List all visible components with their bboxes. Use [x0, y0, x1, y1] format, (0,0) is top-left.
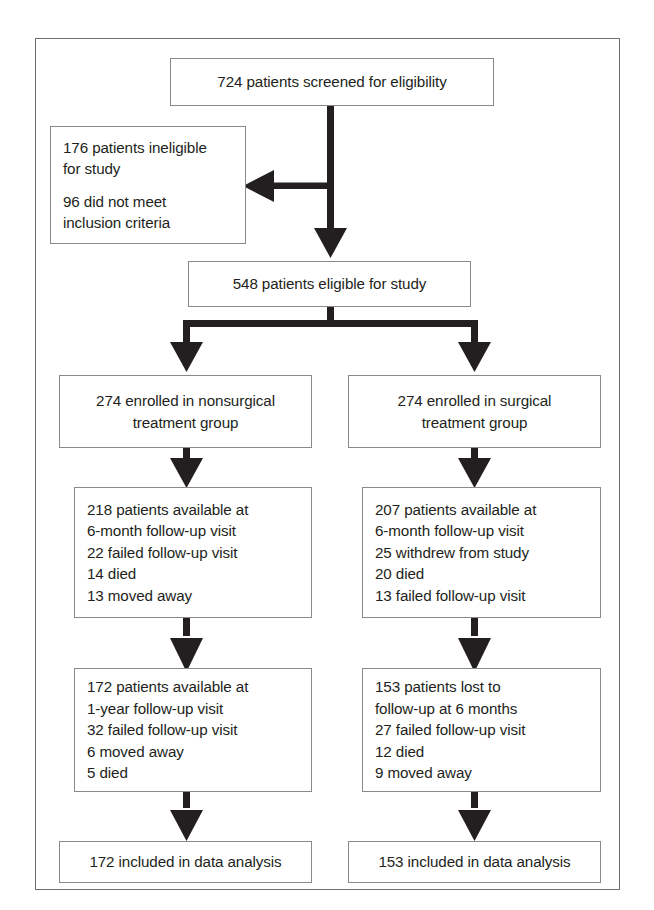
surgical-analysis-line-0: 153 included in data analysis	[378, 851, 570, 873]
surgical-analysis-box: 153 included in data analysis	[348, 841, 601, 883]
ineligible-box: 176 patients ineligible for study 96 did…	[50, 126, 246, 244]
nonsurgical-enrolled-line-0: 274 enrolled in nonsurgical	[96, 390, 275, 412]
eligible-box: 548 patients eligible for study	[188, 261, 471, 307]
ineligible-box-line-1: for study	[63, 158, 120, 180]
surgical-enrolled-line-1: treatment group	[422, 412, 528, 434]
nonsurgical-6month-line-2: 22 failed follow-up visit	[87, 542, 237, 564]
nonsurgical-6month-box: 218 patients available at 6-month follow…	[74, 487, 312, 618]
surgical-6month-line-2: 25 withdrew from study	[375, 542, 529, 564]
surgical-1year-line-2: 27 failed follow-up visit	[375, 719, 525, 741]
surgical-1year-line-0: 153 patients lost to	[375, 676, 501, 698]
surgical-enrolled-line-0: 274 enrolled in surgical	[398, 390, 552, 412]
nonsurgical-6month-line-1: 6-month follow-up visit	[87, 520, 236, 542]
surgical-6month-line-3: 20 died	[375, 563, 424, 585]
nonsurgical-1year-line-4: 5 died	[87, 762, 128, 784]
nonsurgical-1year-box: 172 patients available at 1-year follow-…	[74, 668, 312, 792]
surgical-1year-line-1: follow-up at 6 months	[375, 698, 517, 720]
surgical-6month-line-1: 6-month follow-up visit	[375, 520, 524, 542]
nonsurgical-enrolled-box: 274 enrolled in nonsurgical treatment gr…	[59, 375, 312, 448]
surgical-1year-box: 153 patients lost to follow-up at 6 mont…	[362, 668, 601, 792]
nonsurgical-1year-line-0: 172 patients available at	[87, 676, 248, 698]
nonsurgical-analysis-box: 172 included in data analysis	[59, 841, 312, 883]
flow-diagram-figure: 724 patients screened for eligibility 17…	[0, 0, 654, 910]
nonsurgical-1year-line-1: 1-year follow-up visit	[87, 698, 223, 720]
ineligible-box-line-0: 176 patients ineligible	[63, 137, 207, 159]
nonsurgical-analysis-line-0: 172 included in data analysis	[89, 851, 281, 873]
eligible-box-line-0: 548 patients eligible for study	[233, 273, 427, 295]
nonsurgical-1year-line-3: 6 moved away	[87, 741, 184, 763]
surgical-6month-box: 207 patients available at 6-month follow…	[362, 487, 601, 618]
screened-box-line-0: 724 patients screened for eligibility	[217, 71, 446, 93]
nonsurgical-6month-line-3: 14 died	[87, 563, 136, 585]
screened-box: 724 patients screened for eligibility	[170, 58, 494, 106]
surgical-enrolled-box: 274 enrolled in surgical treatment group	[348, 375, 601, 448]
ineligible-box-line-4: inclusion criteria	[63, 212, 170, 234]
nonsurgical-6month-line-4: 13 moved away	[87, 585, 192, 607]
surgical-6month-line-4: 13 failed follow-up visit	[375, 585, 525, 607]
surgical-1year-line-4: 9 moved away	[375, 762, 472, 784]
nonsurgical-6month-line-0: 218 patients available at	[87, 499, 248, 521]
nonsurgical-1year-line-2: 32 failed follow-up visit	[87, 719, 237, 741]
nonsurgical-enrolled-line-1: treatment group	[133, 412, 239, 434]
ineligible-box-line-3: 96 did not meet	[63, 191, 166, 213]
surgical-1year-line-3: 12 died	[375, 741, 424, 763]
surgical-6month-line-0: 207 patients available at	[375, 499, 536, 521]
